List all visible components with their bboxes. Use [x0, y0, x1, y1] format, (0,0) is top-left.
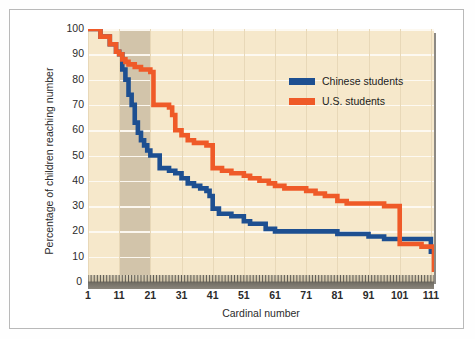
legend-label: U.S. students — [322, 95, 385, 107]
legend-swatch-icon — [289, 98, 315, 105]
x-axis-tick-labels: 1112131415161718191101111 — [0, 289, 475, 305]
y-axis-title-wrap: Percentage of children reaching number — [22, 35, 44, 280]
y-tick-80: 80 — [54, 73, 84, 85]
series-line-chinese-students — [88, 29, 434, 254]
chart-legend: Chinese studentsU.S. students — [289, 73, 403, 113]
series-lines — [88, 29, 434, 282]
x-axis-minor-ticks — [88, 275, 434, 289]
y-tick-50: 50 — [54, 149, 84, 161]
y-tick-40: 40 — [54, 174, 84, 186]
y-tick-20: 20 — [54, 224, 84, 236]
y-tick-10: 10 — [54, 250, 84, 262]
y-tick-70: 70 — [54, 98, 84, 110]
chart-figure: Percentage of children reaching number 1… — [0, 0, 475, 339]
y-tick-100: 100 — [54, 22, 84, 34]
legend-item-1[interactable]: U.S. students — [289, 93, 403, 109]
y-tick-zero: 0 — [52, 275, 82, 287]
legend-item-0[interactable]: Chinese students — [289, 73, 403, 89]
y-tick-60: 60 — [54, 123, 84, 135]
x-tick-111: 111 — [411, 289, 451, 301]
y-tick-30: 30 — [54, 199, 84, 211]
x-axis-ruler — [88, 275, 434, 289]
x-axis-title: Cardinal number — [88, 307, 434, 319]
y-tick-90: 90 — [54, 47, 84, 59]
legend-swatch-icon — [289, 78, 315, 85]
legend-label: Chinese students — [322, 75, 403, 87]
plot-area — [88, 29, 434, 282]
